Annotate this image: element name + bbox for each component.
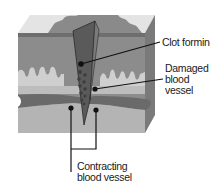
label-damaged-blood-vessel: Damaged blood vessel (165, 63, 208, 96)
label-contracting-line2: blood vessel (77, 172, 132, 183)
label-clot-text: Clot forming (162, 36, 210, 48)
skin-side-face (145, 15, 155, 133)
label-contracting-blood-vessel: Contracting blood vessel (77, 161, 132, 183)
label-damaged-line3: vessel (165, 85, 208, 96)
label-clot-forming: Clot forming (162, 37, 210, 48)
